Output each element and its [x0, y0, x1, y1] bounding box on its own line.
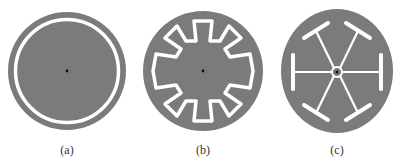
figure-c-disc: [281, 9, 393, 133]
figure-b-disc: [143, 11, 263, 131]
figure-label-c: (c): [317, 143, 357, 158]
figure-label-a: (a): [47, 143, 87, 158]
figure-a-disc: [8, 12, 126, 130]
figure-label-b: (b): [183, 143, 223, 158]
